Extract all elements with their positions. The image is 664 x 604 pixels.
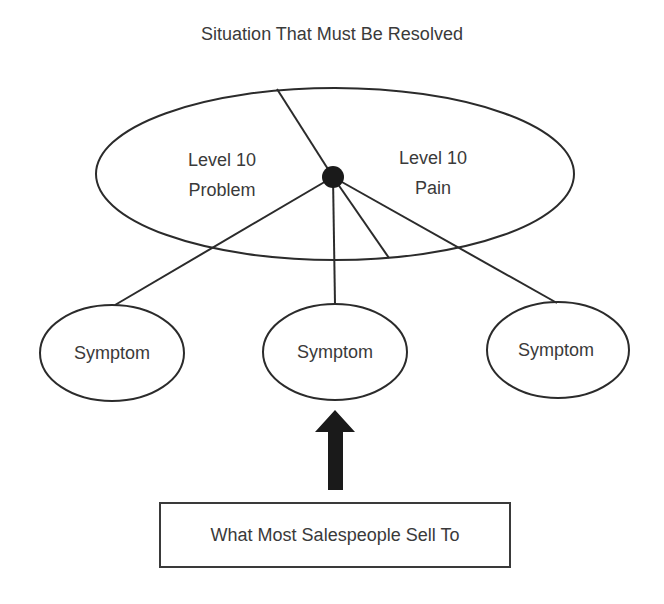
problem-label: Level 10 Problem — [162, 145, 282, 205]
up-arrow-icon — [315, 410, 355, 490]
pain-label: Level 10 Pain — [373, 143, 493, 203]
connector-middle — [333, 177, 335, 304]
symptom-label-middle: Symptom — [275, 337, 395, 367]
callout-box: What Most Salespeople Sell To — [159, 502, 511, 568]
pain-label-line2: Pain — [373, 173, 493, 203]
divider-line-top — [277, 89, 333, 177]
symptom-label-left: Symptom — [52, 338, 172, 368]
symptom-label-right: Symptom — [496, 335, 616, 365]
center-dot — [322, 166, 344, 188]
problem-label-line1: Level 10 — [162, 145, 282, 175]
pain-label-line1: Level 10 — [373, 143, 493, 173]
callout-box-label: What Most Salespeople Sell To — [211, 525, 460, 546]
problem-label-line2: Problem — [162, 175, 282, 205]
